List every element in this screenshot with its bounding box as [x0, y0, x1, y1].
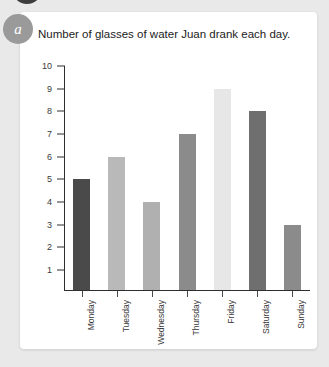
- y-axis-tick: [57, 270, 65, 271]
- y-axis-label: 8: [30, 106, 52, 116]
- y-axis-tick: [57, 134, 65, 135]
- y-axis-tick: [57, 156, 65, 157]
- x-axis-label-monday: Monday: [86, 300, 96, 330]
- y-axis-tick: [57, 202, 65, 203]
- y-axis-tick: [57, 66, 65, 67]
- x-axis-tick: [257, 291, 258, 297]
- x-axis-label-saturday: Saturday: [261, 300, 271, 334]
- x-axis-label-friday: Friday: [226, 300, 236, 324]
- x-axis-tick: [82, 291, 83, 297]
- y-axis-label: 6: [30, 152, 52, 162]
- x-axis-label-tuesday: Tuesday: [121, 300, 131, 332]
- y-axis-tick: [57, 111, 65, 112]
- x-axis-label-thursday: Thursday: [191, 300, 201, 335]
- bar-friday: [214, 89, 231, 290]
- x-axis-tick: [222, 291, 223, 297]
- x-axis-tick: [117, 291, 118, 297]
- x-axis-label-wednesday: Wednesday: [156, 300, 166, 345]
- bar-sunday: [284, 225, 301, 290]
- y-axis-label: 7: [30, 129, 52, 139]
- y-axis-tick: [57, 88, 65, 89]
- y-axis-label: 1: [30, 265, 52, 275]
- part-badge-a: a: [3, 14, 33, 44]
- bar-wednesday: [143, 202, 160, 290]
- bar-monday: [73, 179, 90, 290]
- y-axis-label: 3: [30, 220, 52, 230]
- y-axis-label: 10: [30, 61, 52, 71]
- y-axis-label: 5: [30, 174, 52, 184]
- bar-thursday: [179, 134, 196, 290]
- x-axis-tick: [292, 291, 293, 297]
- y-axis-tick: [57, 179, 65, 180]
- y-axis-tick: [57, 247, 65, 248]
- y-axis-tick: [57, 224, 65, 225]
- bar-chart: 10987654321MondayTuesdayWednesdayThursda…: [0, 0, 329, 367]
- x-axis-tick: [152, 291, 153, 297]
- x-axis-tick: [187, 291, 188, 297]
- y-axis-label: 2: [30, 242, 52, 252]
- bar-tuesday: [108, 157, 125, 290]
- y-axis-label: 4: [30, 197, 52, 207]
- bar-saturday: [249, 111, 266, 290]
- x-axis-label-sunday: Sunday: [296, 300, 306, 329]
- y-axis-label: 9: [30, 84, 52, 94]
